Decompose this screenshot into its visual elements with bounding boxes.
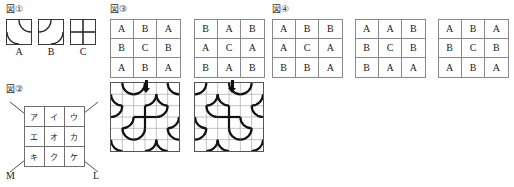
figure-1-captions: A B C: [6, 46, 96, 57]
figure-3-grid-1: A B A B C B A B A: [110, 19, 180, 77]
grid-cell: A: [272, 38, 296, 58]
grid-cell: A: [401, 57, 425, 77]
grid-cell: A: [217, 57, 241, 77]
figure-2-cell: ア: [24, 106, 45, 127]
grid-cell: A: [484, 19, 508, 39]
grid-cell: C: [133, 38, 157, 58]
grid-cell: A: [272, 19, 296, 39]
figure-2-body: ア イ ウ エ オ カ キ ク ケ M L: [6, 98, 102, 186]
figure-2-cell: ウ: [64, 106, 85, 127]
diagonal-label-m: M: [6, 170, 15, 181]
grid-cell: B: [295, 19, 319, 39]
grid-cell: B: [461, 19, 485, 39]
figure-3-pattern-row: [110, 82, 268, 152]
grid-cell: A: [378, 19, 402, 39]
grid-cell: A: [438, 19, 462, 39]
figure-4-grid-row: A B B A C A B B A A A B B C B B A A A B …: [272, 19, 508, 77]
figure-2-cell: エ: [24, 126, 45, 147]
figure-2-cell: キ: [24, 146, 45, 167]
grid-cell: B: [133, 19, 157, 39]
figure-4-grid-1: A B B A C A B B A: [272, 19, 342, 77]
figure-1-label: 図①: [6, 2, 96, 15]
grid-cell: A: [378, 57, 402, 77]
tile-a: [6, 19, 32, 45]
grid-cell: B: [295, 57, 319, 77]
grid-cell: A: [355, 19, 379, 39]
tile-c: [70, 19, 96, 45]
figure-4-grid-3: A B A B C B A B A: [438, 19, 508, 77]
tile-b: [38, 19, 64, 45]
figure-2-cell: イ: [44, 106, 65, 127]
figure-2-cell: オ: [44, 126, 65, 147]
grid-cell: A: [110, 19, 134, 39]
grid-cell: C: [295, 38, 319, 58]
figure-2-cell: ク: [44, 146, 65, 167]
grid-cell: B: [318, 19, 342, 39]
grid-cell: C: [217, 38, 241, 58]
grid-cell: B: [240, 19, 264, 39]
figure-2-cell: ケ: [64, 146, 85, 167]
grid-cell: C: [378, 38, 402, 58]
grid-cell: B: [110, 38, 134, 58]
grid-cell: B: [484, 38, 508, 58]
tile-caption-c: C: [70, 46, 96, 57]
grid-cell: A: [318, 57, 342, 77]
grid-cell: B: [401, 38, 425, 58]
grid-cell: B: [240, 57, 264, 77]
grid-cell: A: [438, 57, 462, 77]
grid-cell: A: [156, 57, 180, 77]
figure-3-grid-2: B A B A C A B A B: [194, 19, 264, 77]
diagonal-label-l: L: [93, 170, 99, 181]
grid-cell: B: [461, 57, 485, 77]
tile-caption-b: B: [38, 46, 64, 57]
grid-cell: A: [194, 38, 218, 58]
grid-cell: A: [110, 57, 134, 77]
tile-caption-a: A: [6, 46, 32, 57]
grid-cell: B: [401, 19, 425, 39]
figure-1-tile-row: [6, 19, 96, 45]
grid-cell: B: [355, 38, 379, 58]
grid-cell: B: [133, 57, 157, 77]
grid-cell: A: [156, 19, 180, 39]
figure-2-grid: ア イ ウ エ オ カ キ ク ケ: [24, 106, 84, 166]
figure-4-grid-2: A A B B C B B A A: [355, 19, 425, 77]
grid-cell: C: [461, 38, 485, 58]
figure-3-panel: 図③ A B A B C B A B A B A B A C A B A B: [110, 2, 268, 152]
grid-cell: B: [438, 38, 462, 58]
grid-cell: B: [156, 38, 180, 58]
figure-3-label: 図③: [110, 2, 268, 15]
figure-2-label: 図②: [6, 82, 102, 95]
figure-4-panel: 図④ A B B A C A B B A A A B B C B B A A A…: [272, 2, 508, 77]
figure-1-panel: 図① A B C: [6, 2, 96, 57]
figure-2-panel: 図② ア イ ウ エ オ カ キ ク ケ M L: [6, 82, 102, 186]
grid-cell: A: [318, 38, 342, 58]
grid-cell: A: [240, 38, 264, 58]
grid-cell: A: [217, 19, 241, 39]
figure-2-cell: カ: [64, 126, 85, 147]
grid-cell: A: [484, 57, 508, 77]
figure-4-label: 図④: [272, 2, 508, 15]
grid-cell: B: [272, 57, 296, 77]
grid-cell: B: [194, 57, 218, 77]
grid-cell: B: [355, 57, 379, 77]
figure-3-grid-row: A B A B C B A B A B A B A C A B A B: [110, 19, 268, 77]
grid-cell: B: [194, 19, 218, 39]
